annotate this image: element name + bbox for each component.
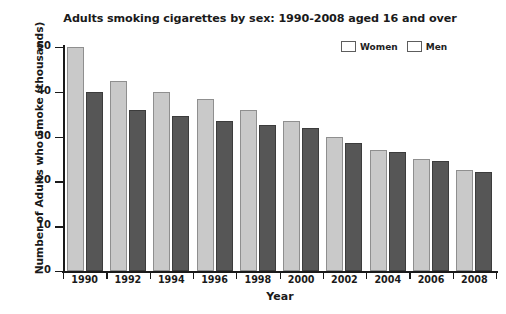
bar-women-2006: [413, 159, 430, 271]
y-axis-tick-label: 50: [37, 40, 51, 51]
bar-men-2004: [389, 152, 406, 271]
bar-group-container: [63, 47, 496, 271]
bar-men-1994: [172, 116, 189, 271]
x-axis-tick-label: 1992: [106, 274, 149, 285]
chart-title: Adults smoking cigarettes by sex: 1990-2…: [60, 12, 460, 25]
y-axis-tick-label: 20: [37, 174, 51, 185]
y-axis-tick-mark: [55, 226, 63, 227]
bar-men-2008: [475, 172, 492, 271]
y-axis-tick-mark: [55, 271, 63, 272]
x-axis-tick-mark: [496, 271, 497, 279]
y-axis-tick-mark: [55, 92, 63, 93]
bar-women-2004: [370, 150, 387, 271]
x-axis-tick-label: 2006: [409, 274, 452, 285]
bar-men-1990: [86, 92, 103, 271]
bar-men-1992: [129, 110, 146, 271]
bar-women-1994: [153, 92, 170, 271]
bar-women-1992: [110, 81, 127, 271]
x-axis-tick-label: 1998: [236, 274, 279, 285]
bar-women-2002: [326, 137, 343, 271]
bar-women-2000: [283, 121, 300, 271]
x-axis-tick-label: 1994: [150, 274, 193, 285]
x-axis-tick-label: 2008: [453, 274, 496, 285]
bar-men-1996: [216, 121, 233, 271]
y-axis-tick-label: 30: [37, 130, 51, 141]
bar-men-2000: [302, 128, 319, 271]
x-axis-tick-label: 2000: [280, 274, 323, 285]
y-axis-tick-mark: [55, 137, 63, 138]
y-axis-tick-label: 10: [37, 219, 51, 230]
y-axis-tick-mark: [55, 181, 63, 182]
bar-women-1998: [240, 110, 257, 271]
y-axis-title: Number of Adults who Smoke (thousands): [33, 13, 45, 283]
x-axis-title: Year: [60, 290, 500, 303]
bar-chart: Adults smoking cigarettes by sex: 1990-2…: [0, 0, 506, 314]
bar-men-1998: [259, 125, 276, 271]
bar-men-2006: [432, 161, 449, 271]
bar-women-1990: [67, 47, 84, 271]
x-axis-tick-label: 1990: [63, 274, 106, 285]
x-axis-tick-label: 1996: [193, 274, 236, 285]
y-axis-tick-label: 0: [44, 264, 51, 275]
y-axis-tick-label: 40: [37, 85, 51, 96]
bar-men-2002: [345, 143, 362, 271]
y-axis-tick-mark: [55, 47, 63, 48]
bar-women-2008: [456, 170, 473, 271]
x-axis-tick-label: 2004: [366, 274, 409, 285]
x-axis-tick-label: 2002: [323, 274, 366, 285]
bar-women-1996: [197, 99, 214, 271]
